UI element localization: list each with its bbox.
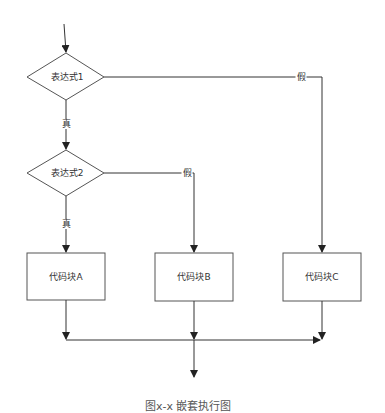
cond1-false-arrow (104, 77, 322, 252)
code-block-c-label: 代码块C (305, 272, 338, 282)
condition-1-label: 表达式1 (51, 72, 84, 82)
condition-2-label: 表达式2 (51, 168, 84, 178)
code-block-b-label: 代码块B (177, 272, 210, 282)
figure-caption: 图x-x 嵌套执行图 (145, 401, 232, 413)
cond2-false-label: 假 (182, 168, 193, 178)
cond2-true-label: 真 (61, 219, 72, 229)
cond1-true-label: 真 (61, 119, 72, 129)
cond1-false-label: 假 (296, 72, 307, 82)
entry-arrow (64, 24, 66, 52)
cond2-false-arrow (104, 173, 194, 252)
code-block-a-label: 代码块A (49, 272, 82, 282)
